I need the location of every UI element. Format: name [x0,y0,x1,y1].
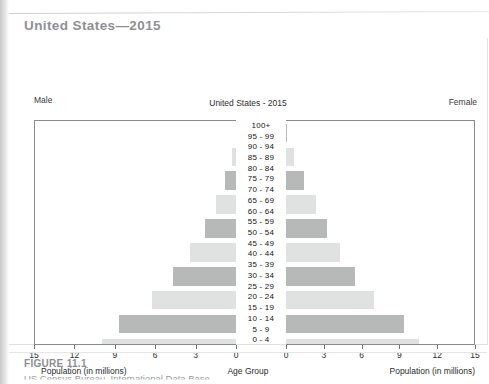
age-group-label: 15 - 19 [236,302,286,313]
page-top-rule [9,11,489,14]
axis-tick [236,345,237,349]
male-plot-area [34,120,236,345]
figure-number: FIGURE 11.1 [24,358,87,369]
female-plot-area [286,120,475,345]
female-bar [286,243,340,262]
male-bar-row [35,312,236,336]
axis-tick [475,345,476,349]
female-axis-title: Population (in millions) [389,366,475,376]
age-group-label: 50 - 54 [236,227,286,238]
female-bar-row [286,288,474,312]
age-group-label: 0 - 4 [236,334,286,345]
male-bar [216,195,236,214]
female-bar-row [286,217,474,241]
age-group-label: 55 - 59 [236,216,286,227]
figure-source: US Census Bureau, International Data Bas… [24,373,210,384]
axis-tick [286,345,287,349]
male-bar [225,171,236,190]
male-bar [173,267,236,286]
axis-tick [437,345,438,349]
female-bar [286,267,355,286]
age-group-label: 60 - 64 [236,206,286,217]
axis-tick [324,345,325,349]
female-x-axis: 03691215 [286,345,475,367]
male-bar [152,291,236,310]
caption-divider [9,352,487,353]
male-bar-row [35,336,236,345]
male-bar-row [35,193,236,217]
female-bar [286,195,316,214]
axis-tick [74,345,75,349]
age-group-label: 5 - 9 [236,324,286,335]
male-bar [119,315,236,334]
page-scan-edge [0,0,9,384]
female-bar-row [286,312,474,336]
age-group-label: 90 - 94 [236,141,286,152]
female-bar-row [286,169,474,193]
age-group-label: 100+ [236,120,286,131]
female-bar [286,315,404,334]
age-group-label: 20 - 24 [236,292,286,303]
male-bar [205,219,236,238]
axis-tick [34,345,35,349]
axis-tick [155,345,156,349]
male-bar-row [35,288,236,312]
female-bar [286,171,304,190]
male-bar-row [35,264,236,288]
female-bar-row [286,145,474,169]
age-group-label: 80 - 84 [236,163,286,174]
axis-tick [115,345,116,349]
figure-panel: Male Female United States - 2015 100+95 … [9,38,488,345]
age-group-axis: 100+95 - 9990 - 9485 - 8980 - 8475 - 797… [236,120,286,345]
male-bar-row [35,217,236,241]
female-bar [286,291,374,310]
chart-title: United States - 2015 [9,98,487,108]
male-bar [190,243,236,262]
age-group-label: 30 - 34 [236,270,286,281]
female-bar-row [286,193,474,217]
male-bar-row [35,169,236,193]
female-bar [286,124,287,143]
male-bar-row [35,121,236,145]
age-group-label: 10 - 14 [236,313,286,324]
male-bar-row [35,240,236,264]
female-bar [286,148,294,167]
age-group-label: 70 - 74 [236,184,286,195]
age-group-label: 85 - 89 [236,152,286,163]
female-bar-row [286,336,474,345]
male-bar-row [35,145,236,169]
female-bar [286,219,327,238]
female-bar-row [286,240,474,264]
age-group-label: 40 - 44 [236,249,286,260]
page-title: United States—2015 [24,18,161,33]
axis-tick [399,345,400,349]
female-bar-row [286,121,474,145]
age-group-label: 35 - 39 [236,259,286,270]
axis-tick [362,345,363,349]
age-group-label: 95 - 99 [236,131,286,142]
female-bar-row [286,264,474,288]
age-group-label: 75 - 79 [236,174,286,185]
age-group-label: 65 - 69 [236,195,286,206]
age-group-label: 25 - 29 [236,281,286,292]
age-group-label: 45 - 49 [236,238,286,249]
axis-tick [196,345,197,349]
